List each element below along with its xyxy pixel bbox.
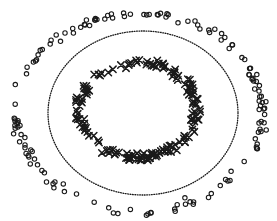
outer-ring-circles [11,11,268,218]
data-point-circle [175,203,179,207]
data-point-circle [193,19,197,23]
data-point-circle [183,196,187,200]
data-point-circle [257,89,261,93]
data-point-circle [176,21,180,25]
data-point-circle [84,18,88,22]
data-point-circle [36,53,40,57]
inner-ring-crosses [73,57,204,164]
data-point-circle [111,211,115,215]
data-point-circle [209,191,213,195]
data-point-circle [61,182,65,186]
data-point-circle [17,140,21,144]
data-point-circle [11,132,15,136]
data-point-circle [128,12,132,16]
data-point-circle [229,169,233,173]
data-point-circle [107,206,111,210]
data-point-circle [71,26,75,30]
scatter-plot [0,0,277,221]
data-point-circle [19,132,23,136]
data-point-circle [63,31,67,35]
data-point-circle [28,162,32,166]
data-point-circle [257,107,261,111]
data-point-circle [24,72,28,76]
data-point-cross [91,71,97,77]
data-point-circle [74,192,78,196]
data-point-circle [183,202,187,206]
data-point-circle [128,207,132,211]
data-point-circle [219,38,223,42]
data-point-circle [242,159,246,163]
data-point-circle [23,143,27,147]
data-point-circle [13,102,17,106]
data-point-circle [54,33,58,37]
data-point-circle [35,163,39,167]
data-point-circle [13,82,17,86]
data-point-circle [116,211,120,215]
data-point-circle [253,137,257,141]
data-point-circle [186,19,190,23]
data-point-circle [218,183,222,187]
data-point-circle [257,83,261,87]
plot-canvas [0,0,277,221]
data-point-circle [142,12,146,16]
data-point-circle [44,180,48,184]
data-point-circle [213,27,217,31]
data-point-circle [71,31,75,35]
data-point-circle [253,87,257,91]
data-point-circle [255,72,259,76]
data-point-circle [262,112,266,116]
data-point-circle [264,128,268,132]
data-point-circle [58,39,62,43]
data-point-circle [32,157,36,161]
data-point-circle [87,23,91,27]
data-point-circle [219,31,223,35]
data-point-circle [62,189,66,193]
data-point-circle [92,200,96,204]
data-point-circle [25,65,29,69]
